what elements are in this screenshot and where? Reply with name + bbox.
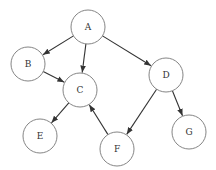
nodes-layer: ABCDEFG	[11, 10, 206, 166]
edge-line	[82, 44, 86, 73]
edge-c-e	[52, 103, 69, 123]
node-c: C	[63, 73, 97, 107]
node-label: B	[25, 59, 32, 69]
node-a: A	[71, 10, 105, 44]
edge-line	[89, 105, 108, 135]
node-d: D	[149, 58, 183, 92]
edge-line	[127, 89, 157, 134]
node-label: E	[37, 131, 44, 141]
edge-d-g	[172, 91, 182, 116]
edge-b-c	[43, 72, 64, 83]
edge-d-f	[127, 89, 157, 134]
edge-a-d	[103, 36, 152, 66]
node-label: D	[162, 70, 169, 80]
edge-line	[43, 36, 74, 55]
edge-f-c	[89, 105, 108, 135]
node-f: F	[100, 132, 134, 166]
node-b: B	[11, 47, 45, 81]
edge-line	[52, 103, 69, 123]
node-e: E	[23, 119, 57, 153]
node-label: A	[84, 22, 92, 32]
node-label: C	[77, 85, 84, 95]
edge-a-c	[82, 44, 86, 73]
node-g: G	[172, 115, 206, 149]
edge-line	[43, 72, 64, 83]
node-label: G	[185, 127, 192, 137]
node-label: F	[114, 144, 120, 154]
graph-canvas: ABCDEFG	[0, 0, 216, 170]
edge-line	[172, 91, 182, 116]
edge-line	[103, 36, 152, 66]
edge-a-b	[43, 36, 74, 55]
